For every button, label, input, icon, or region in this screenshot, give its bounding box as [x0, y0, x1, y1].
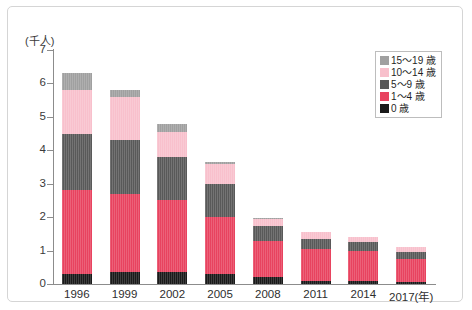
bar-segment [396, 259, 426, 282]
bar-segment [110, 194, 140, 273]
bar-segment [348, 251, 378, 282]
x-axis-tick-label: 1999 [101, 288, 149, 300]
y-axis-tick-label: 4 [22, 145, 46, 157]
bar-segment [301, 281, 331, 284]
legend-item-label: 1〜4 歳 [391, 91, 425, 102]
y-axis-tick [47, 83, 53, 84]
bar-segment [396, 252, 426, 259]
legend-swatch-icon [380, 56, 389, 65]
bar-segment [62, 134, 92, 191]
bar-segment [110, 97, 140, 140]
y-axis-tick-label: 0 [22, 278, 46, 290]
bar-segment [157, 272, 187, 284]
bar-segment [301, 239, 331, 249]
bar-stack[interactable] [205, 50, 235, 284]
chart-frame: (千人) 01234567 15〜19 歳10〜14 歳5〜9 歳1〜4 歳0 … [7, 6, 463, 302]
legend-item[interactable]: 0 歳 [380, 103, 436, 114]
bar-segment [157, 124, 187, 132]
x-axis-tick-label: 2017(年) [387, 288, 435, 304]
legend-swatch-icon [380, 104, 389, 113]
bar-segment [62, 90, 92, 133]
bar-segment [110, 90, 140, 97]
bar-segment [205, 164, 235, 184]
legend-swatch-icon [380, 92, 389, 101]
legend-item-label: 0 歳 [391, 103, 409, 114]
y-axis-tick [47, 150, 53, 151]
bar-segment [110, 140, 140, 193]
x-axis-line [53, 284, 436, 285]
bar-segment [157, 157, 187, 200]
bar-segment [253, 277, 283, 284]
bar-segment [348, 281, 378, 284]
x-axis-tick-label: 2005 [196, 288, 244, 300]
legend-item-label: 15〜19 歳 [391, 55, 436, 66]
bar-segment [205, 184, 235, 217]
y-axis-tick-label: 5 [22, 111, 46, 123]
y-axis-tick [47, 184, 53, 185]
bar-segment [348, 242, 378, 250]
x-axis-tick-label: 2008 [244, 288, 292, 300]
bar-segment [301, 249, 331, 281]
x-axis-tick-label: 1996 [53, 288, 101, 300]
bar-segment [205, 217, 235, 274]
x-axis-tick-label: 2014 [340, 288, 388, 300]
bar-segment [62, 274, 92, 284]
x-axis-tick-label: 2011 [292, 288, 340, 300]
bar-segment [157, 132, 187, 157]
y-axis-tick-label: 7 [22, 44, 46, 56]
bar-segment [110, 272, 140, 284]
bar-stack[interactable] [301, 50, 331, 284]
bar-stack[interactable] [110, 50, 140, 284]
bar-segment [253, 226, 283, 241]
y-axis-tick-label: 2 [22, 211, 46, 223]
bar-segment [253, 219, 283, 226]
legend-swatch-icon [380, 68, 389, 77]
bar-segment [62, 73, 92, 90]
bar-stack[interactable] [62, 50, 92, 284]
bar-stack[interactable] [157, 50, 187, 284]
y-axis-tick [47, 117, 53, 118]
bar-segment [62, 190, 92, 274]
legend-item[interactable]: 15〜19 歳 [380, 55, 436, 66]
y-axis-tick-labels: 01234567 [16, 7, 46, 310]
bar-stack[interactable] [348, 50, 378, 284]
y-axis-tick-label: 6 [22, 78, 46, 90]
legend-item[interactable]: 5〜9 歳 [380, 79, 436, 90]
bar-segment [205, 274, 235, 284]
y-axis-tick-label: 3 [22, 178, 46, 190]
legend-swatch-icon [380, 80, 389, 89]
legend-item-label: 10〜14 歳 [391, 67, 436, 78]
bar-segment [396, 282, 426, 284]
bar-segment [157, 200, 187, 272]
bar-segment [301, 232, 331, 239]
x-axis-tick-label: 2002 [149, 288, 197, 300]
y-axis-tick [47, 251, 53, 252]
bar-stack[interactable] [253, 50, 283, 284]
bar-segment [253, 241, 283, 278]
legend-item-label: 5〜9 歳 [391, 79, 425, 90]
y-axis-tick [47, 284, 53, 285]
y-axis-tick [47, 217, 53, 218]
legend-item[interactable]: 10〜14 歳 [380, 67, 436, 78]
y-axis-tick [47, 50, 53, 51]
chart-legend: 15〜19 歳10〜14 歳5〜9 歳1〜4 歳0 歳 [375, 51, 442, 118]
legend-item[interactable]: 1〜4 歳 [380, 91, 436, 102]
y-axis-tick-label: 1 [22, 245, 46, 257]
